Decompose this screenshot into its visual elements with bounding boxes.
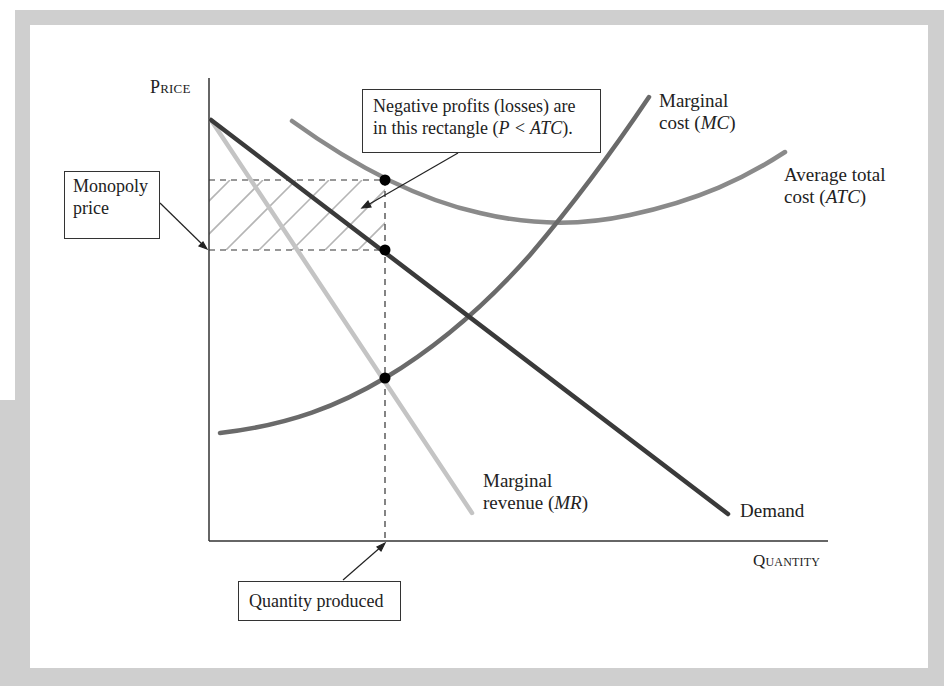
mr-label-line2: revenue (MR) — [483, 492, 588, 514]
mc-label-line2: cost (MC) — [659, 112, 736, 134]
mr-label-line1: Marginal — [483, 470, 588, 492]
atc-label-line1: Average total — [784, 164, 885, 186]
atc-label-suffix: ) — [860, 186, 866, 207]
mr-label-suffix: ) — [582, 492, 588, 513]
leader-lines — [160, 153, 458, 580]
mc-label-suffix: ) — [729, 112, 735, 133]
mr-label: Marginal revenue (MR) — [483, 470, 588, 514]
mc-label-prefix: cost ( — [659, 112, 701, 133]
losses-callout: Negative profits (losses) are in this re… — [362, 89, 601, 153]
monopoly-price-line1: Monopoly — [73, 175, 151, 197]
loss-rectangle-hatch — [160, 180, 428, 250]
losses-inequality: P < ATC — [498, 118, 562, 138]
losses-line2-suffix: ). — [562, 118, 573, 138]
losses-line2-prefix: in this rectangle ( — [373, 118, 498, 138]
mr-mc-point — [380, 373, 391, 384]
mc-abbr: MC — [701, 112, 730, 133]
mr-abbr: MR — [554, 492, 581, 513]
quantity-produced-callout: Quantity produced — [238, 581, 401, 621]
mc-label: Marginal cost (MC) — [659, 90, 736, 134]
mr-label-prefix: revenue ( — [483, 492, 554, 513]
demand-label: Demand — [740, 500, 804, 522]
price-point — [380, 245, 391, 256]
atc-point — [380, 175, 391, 186]
monopoly-price-callout: Monopoly price — [64, 171, 160, 239]
mc-label-line1: Marginal — [659, 90, 736, 112]
atc-abbr: ATC — [826, 186, 860, 207]
atc-label-line2: cost (ATC) — [784, 186, 885, 208]
losses-line2: in this rectangle (P < ATC). — [373, 117, 590, 139]
monopoly-price-line2: price — [73, 197, 151, 219]
losses-line1: Negative profits (losses) are — [373, 95, 590, 117]
x-axis-label: Quantity — [753, 550, 820, 572]
atc-label-prefix: cost ( — [784, 186, 826, 207]
demand-curve — [211, 120, 728, 514]
mr-curve — [211, 120, 472, 513]
atc-label: Average total cost (ATC) — [784, 164, 885, 208]
y-axis-label: Price — [150, 76, 191, 98]
